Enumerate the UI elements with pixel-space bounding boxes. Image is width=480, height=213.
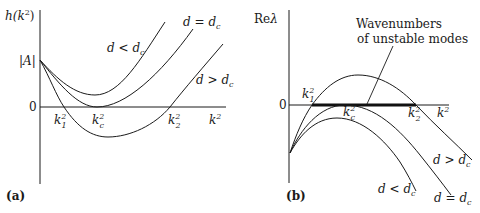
- panel-b-annotation-line2: of unstable modes: [357, 32, 468, 46]
- panel-b-label-d-equal-dc: d = dc: [434, 191, 472, 207]
- panel-b-label-d-less-dc: d < dc: [378, 182, 416, 198]
- svg-text:h(k2): h(k2): [5, 8, 34, 23]
- panel-a-label-d-less-dc: d < dc: [107, 41, 145, 57]
- panel-a-xlabel: k2: [209, 112, 221, 127]
- panel-b-xlabel: k2: [437, 105, 449, 120]
- panel-b-k2-tick: k22: [408, 105, 420, 123]
- panel-b: Reλ 0 k21 k2c k22 k2 Wavenumbers of unst…: [254, 10, 472, 207]
- panel-b-annotation-pointer: [367, 46, 393, 104]
- panel-a: h(k2) |A| 0 k21 k2c k22 k2 d < dc d = dc…: [5, 8, 234, 203]
- panel-b-k1-tick: k21: [302, 86, 314, 104]
- panel-b-curve-d-equal-dc: [290, 105, 451, 195]
- panel-a-kc-tick: k2c: [92, 112, 104, 130]
- panel-b-curve-d-less-dc: [290, 118, 416, 191]
- figure: h(k2) |A| 0 k21 k2c k22 k2 d < dc d = dc…: [0, 0, 480, 213]
- panel-b-label-d-greater-dc: d > dc: [433, 153, 471, 169]
- panel-a-zero-tick: 0: [29, 100, 37, 114]
- panel-a-label-d-equal-dc: d = dc: [183, 15, 221, 31]
- panel-a-curve-d-greater-dc: [40, 44, 223, 137]
- panel-a-abs-a-tick: |A|: [19, 54, 36, 68]
- panel-b-label: (b): [286, 189, 306, 203]
- panel-b-zero-tick: 0: [279, 98, 287, 112]
- panel-a-k2-tick: k22: [168, 112, 180, 130]
- panel-b-ylabel: Reλ: [254, 12, 278, 26]
- panel-a-k1-tick: k21: [54, 112, 66, 130]
- panel-a-ylabel-h: h(: [5, 9, 18, 23]
- panel-a-label-d-greater-dc: d > dc: [196, 73, 234, 89]
- panel-b-annotation-line1: Wavenumbers: [356, 17, 442, 31]
- panel-a-curve-d-less-dc: [40, 22, 165, 95]
- panel-a-label: (a): [6, 189, 25, 203]
